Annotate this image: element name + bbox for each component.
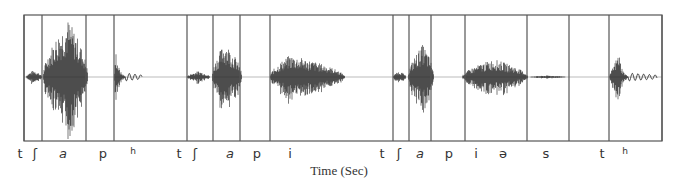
speech-waveform [26,23,657,140]
waveform-burst [462,60,528,95]
phoneme-label: h [622,146,628,156]
phoneme-label: a [416,146,424,161]
phoneme-label: h [130,146,136,156]
waveform-burst [270,56,345,103]
waveform-burst [26,71,42,84]
waveform-burst [187,72,210,84]
phoneme-label: ə [499,146,507,161]
phoneme-label: t [379,146,384,161]
phoneme-label: t [176,146,181,161]
waveform-burst [125,74,142,81]
waveform-burst [408,45,434,112]
phoneme-label: ʃ [397,146,401,161]
waveform-burst [530,76,566,79]
phoneme-label: t [17,146,22,161]
phoneme-label: s [543,146,550,161]
phoneme-label: ʃ [33,146,37,161]
waveform-burst [393,72,406,82]
phoneme-label: t [599,146,604,161]
phoneme-label: i [288,146,292,161]
phoneme-label: p [99,146,107,161]
phoneme-label: i [474,146,478,161]
waveform-burst [114,54,125,100]
phoneme-label: p [445,146,453,161]
waveform-burst [43,23,88,140]
phoneme-label: ʃ [193,146,197,161]
waveform-burst [212,50,242,108]
phoneme-label: a [59,146,67,161]
phoneme-label: p [253,146,261,161]
x-axis-label: Time (Sec) [0,163,678,179]
phoneme-label: a [226,146,234,161]
waveform-burst [609,58,628,100]
